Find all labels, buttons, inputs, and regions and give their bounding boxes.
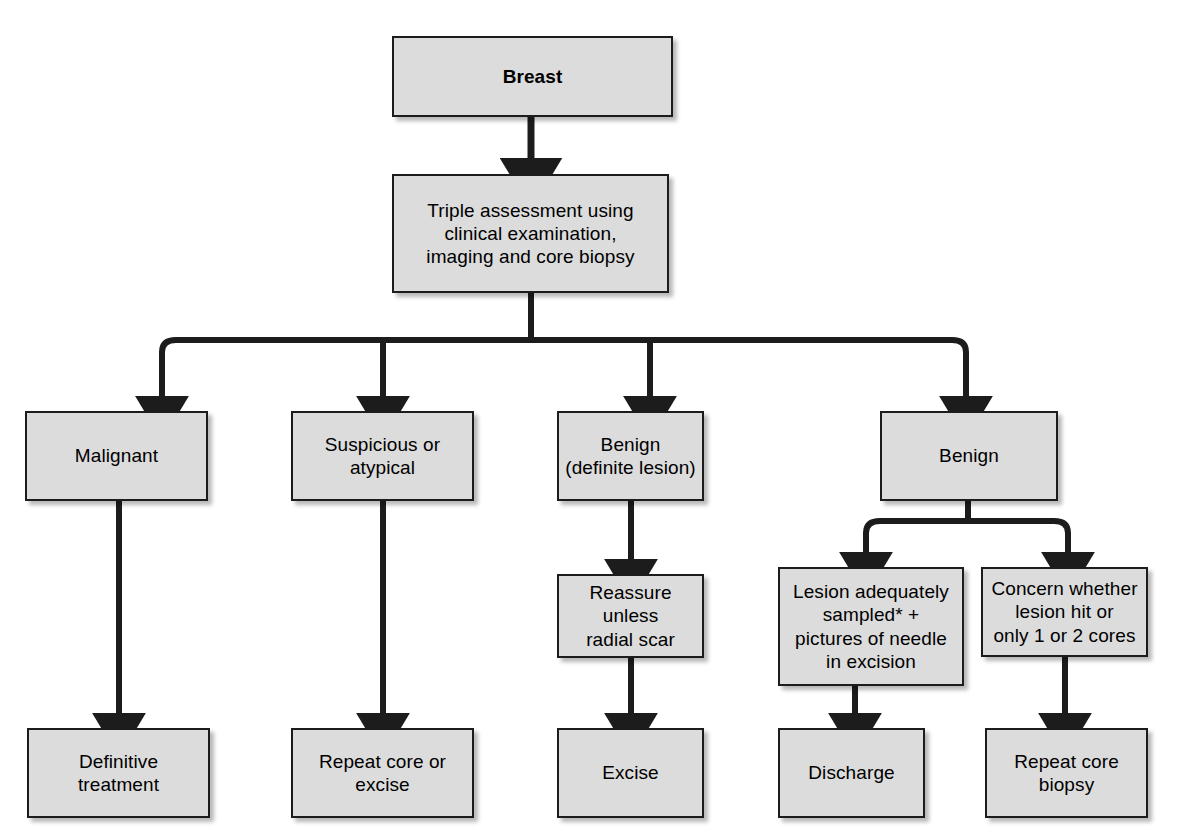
node-concern-whether-lesion-hit[interactable]: Concern whether lesion hit or only 1 or … <box>981 567 1148 657</box>
node-excise-label: Excise <box>602 761 659 784</box>
node-discharge-label: Discharge <box>808 761 894 784</box>
node-malignant-label: Malignant <box>75 444 158 467</box>
node-breast-label: Breast <box>503 65 563 88</box>
node-breast[interactable]: Breast <box>392 36 673 117</box>
node-lesion-adequately-sampled-label: Lesion adequately sampled* + pictures of… <box>793 580 949 673</box>
node-definitive-treatment[interactable]: Definitive treatment <box>27 728 210 818</box>
edge-distribution-bar <box>162 340 966 368</box>
flowchart-canvas: Breast Triple assessment using clinical … <box>0 0 1195 836</box>
node-repeat-core-or-excise-label: Repeat core or excise <box>319 750 446 796</box>
node-suspicious-or-atypical[interactable]: Suspicious or atypical <box>291 411 474 501</box>
node-definitive-treatment-label: Definitive treatment <box>78 750 159 796</box>
node-reassure-unless-radial-scar[interactable]: Reassure unless radial scar <box>557 574 704 658</box>
node-repeat-core-or-excise[interactable]: Repeat core or excise <box>291 728 474 818</box>
node-suspicious-or-atypical-label: Suspicious or atypical <box>325 433 440 479</box>
node-benign-label: Benign <box>939 444 999 467</box>
node-lesion-adequately-sampled[interactable]: Lesion adequately sampled* + pictures of… <box>778 567 964 686</box>
node-repeat-core-biopsy-label: Repeat core biopsy <box>1014 750 1119 796</box>
node-triple-assessment-label: Triple assessment using clinical examina… <box>426 199 634 269</box>
node-reassure-unless-radial-scar-label: Reassure unless radial scar <box>563 581 698 651</box>
edge-benign-sub-distribution-bar <box>866 521 1068 548</box>
node-repeat-core-biopsy[interactable]: Repeat core biopsy <box>985 728 1148 818</box>
node-excise[interactable]: Excise <box>557 728 704 818</box>
node-concern-whether-lesion-hit-label: Concern whether lesion hit or only 1 or … <box>991 577 1137 647</box>
node-benign-definite-lesion[interactable]: Benign (definite lesion) <box>557 411 704 501</box>
node-malignant[interactable]: Malignant <box>25 411 208 501</box>
node-benign-definite-lesion-label: Benign (definite lesion) <box>565 433 696 479</box>
node-triple-assessment[interactable]: Triple assessment using clinical examina… <box>392 174 669 293</box>
node-benign[interactable]: Benign <box>880 411 1058 501</box>
node-discharge[interactable]: Discharge <box>778 728 925 818</box>
